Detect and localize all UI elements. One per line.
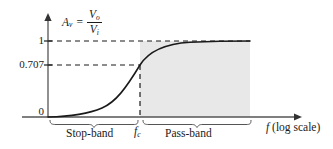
y-tick-label-unity: 1 — [26, 35, 44, 46]
fraction-numerator: V — [89, 8, 96, 20]
gain-fraction: Vo Vi — [87, 9, 102, 35]
y-axis-label-subscript: v — [69, 21, 72, 29]
x-axis-arrowhead — [294, 113, 302, 120]
x-axis-label-symbol: f — [266, 121, 269, 133]
x-axis-label-text: (log scale) — [272, 121, 320, 133]
filter-response-figure: Av = Vo Vi 1 0.707 0 Stop-band Pass-band… — [0, 0, 333, 149]
y-tick-label-cutoff: 0.707 — [8, 59, 44, 70]
y-axis-label-equals: = — [76, 17, 83, 29]
fraction-denominator-subscript: i — [97, 28, 99, 37]
y-axis-arrowhead — [44, 13, 51, 21]
y-tick-label-zero: 0 — [26, 106, 44, 117]
y-axis-label-symbol: A — [62, 17, 69, 29]
stop-band-label: Stop-band — [66, 128, 113, 140]
fraction-denominator: V — [90, 23, 97, 35]
fraction-numerator-subscript: o — [96, 13, 100, 22]
x-axis-label: f (log scale) — [266, 122, 320, 134]
pass-band-shading — [140, 41, 250, 117]
pass-band-label: Pass-band — [165, 128, 212, 140]
y-axis-label: Av = Vo Vi — [62, 10, 102, 36]
cutoff-frequency-label: fc — [134, 126, 141, 138]
cutoff-frequency-subscript: c — [137, 130, 140, 139]
